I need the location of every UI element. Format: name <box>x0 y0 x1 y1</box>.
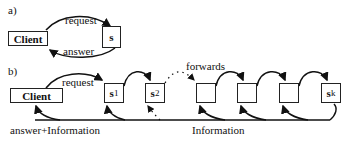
server-box-3 <box>196 83 216 103</box>
server-box-1: s1 <box>104 83 124 103</box>
server-box-a: s <box>102 26 121 48</box>
server-box-4 <box>237 83 257 103</box>
server-index: k <box>331 88 336 98</box>
forwards-label: forwards <box>186 60 225 72</box>
server-index: 1 <box>114 88 119 98</box>
request-label-a: request <box>65 14 97 26</box>
server-box-k: sk <box>321 83 341 103</box>
client-box-b: Client <box>10 88 63 103</box>
server-box-2: s2 <box>145 83 165 103</box>
server-box-5 <box>279 83 299 103</box>
client-label: Client <box>14 33 43 45</box>
information-label: Information <box>192 124 245 136</box>
answer-label-a: answer <box>63 45 94 57</box>
panel-a-label: a) <box>8 4 17 16</box>
client-label: Client <box>22 90 51 102</box>
diagram-arrows <box>0 0 347 144</box>
answer-info-label: answer+Information <box>10 124 100 136</box>
client-box-a: Client <box>8 31 48 46</box>
request-label-b: request <box>62 76 94 88</box>
server-index: 2 <box>155 88 160 98</box>
panel-b-label: b) <box>8 65 17 77</box>
server-label: s <box>109 31 113 43</box>
